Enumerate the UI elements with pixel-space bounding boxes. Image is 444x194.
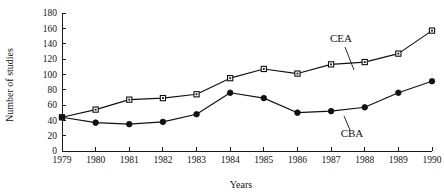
data-point-marker <box>362 105 368 111</box>
chart-container: 020406080100120140160180 197919801981198… <box>0 0 444 194</box>
data-point-marker-core <box>95 109 97 111</box>
y-axis-title: Number of studies <box>4 48 15 122</box>
data-point-marker-core <box>162 97 164 99</box>
data-point-marker-core <box>263 68 265 70</box>
x-axis-tick-label: 1979 <box>53 155 72 165</box>
line-chart: 020406080100120140160180 197919801981198… <box>0 0 444 194</box>
x-axis-tick-label: 1988 <box>355 155 374 165</box>
data-point-marker <box>194 111 200 117</box>
x-axis-tick-label: 1987 <box>322 155 341 165</box>
series-annotation-layer: CEACBA <box>330 32 363 139</box>
data-point-marker <box>160 119 166 125</box>
annotation-leader-line <box>345 47 354 70</box>
x-axis-tick-label: 1982 <box>153 155 172 165</box>
data-point-marker-core <box>128 99 130 101</box>
y-axis-tick-label: 140 <box>43 39 58 49</box>
data-point-marker <box>295 110 301 116</box>
data-point-marker <box>227 90 233 96</box>
series-line <box>62 31 432 118</box>
data-point-marker <box>126 121 132 127</box>
x-axis-tick-label: 1984 <box>221 155 240 165</box>
x-axis-tick-label: 1980 <box>86 155 105 165</box>
x-axis-tick-group: 1979198019811982198319841985198619871988… <box>53 147 442 165</box>
data-point-marker-core <box>397 53 399 55</box>
data-point-marker <box>261 95 267 101</box>
y-axis-tick-group: 020406080100120140160180 <box>43 8 66 156</box>
series-cba <box>59 78 435 127</box>
x-axis-title: Years <box>230 179 252 190</box>
y-axis-tick-label: 80 <box>48 85 58 95</box>
data-point-marker-core <box>364 61 366 63</box>
y-axis-tick-label: 160 <box>43 24 58 34</box>
y-axis-tick-label: 60 <box>48 100 58 110</box>
series-cea <box>59 28 434 120</box>
x-axis-tick-label: 1981 <box>120 155 139 165</box>
y-axis-tick-label: 20 <box>48 131 58 141</box>
x-axis-tick-label: 1986 <box>288 155 307 165</box>
x-axis-tick-label: 1983 <box>187 155 206 165</box>
x-axis-tick-label: 1990 <box>423 155 442 165</box>
x-axis-tick-label: 1989 <box>389 155 408 165</box>
data-point-marker-core <box>229 77 231 79</box>
data-point-marker <box>396 90 402 96</box>
series-label-cea: CEA <box>330 32 352 44</box>
y-axis-tick-label: 40 <box>48 116 58 126</box>
x-axis-tick-label: 1985 <box>254 155 273 165</box>
y-axis-tick-label: 120 <box>43 54 58 64</box>
series-label-cba: CBA <box>341 127 364 139</box>
data-point-marker <box>93 120 99 126</box>
y-axis-tick-label: 100 <box>43 70 58 80</box>
y-axis-tick-label: 180 <box>43 8 58 18</box>
data-point-marker-core <box>330 63 332 65</box>
data-point-marker <box>59 114 65 120</box>
data-point-marker-core <box>196 93 198 95</box>
data-point-marker <box>429 78 435 84</box>
data-point-marker <box>328 108 334 114</box>
series-layer <box>59 28 435 127</box>
data-point-marker-core <box>297 73 299 75</box>
data-point-marker-core <box>431 30 433 32</box>
